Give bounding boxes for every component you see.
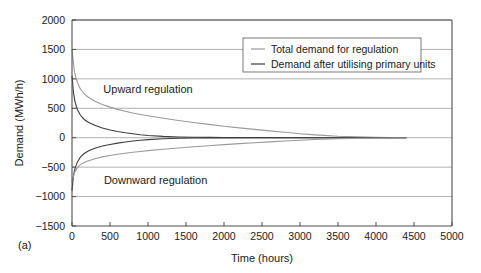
x-tick-label: 4000 [364, 230, 388, 242]
annotation-label-0: Upward regulation [103, 83, 192, 95]
panel-label: (a) [18, 239, 31, 251]
y-axis-title: Demand (MWh/h) [13, 80, 25, 167]
y-tick-label: −500 [41, 161, 65, 173]
x-tick-label: 1000 [136, 230, 160, 242]
y-tick-label: 2000 [42, 14, 66, 26]
y-tick-label: −1000 [36, 190, 66, 202]
x-tick-label: 500 [101, 230, 119, 242]
x-tick-label: 4500 [402, 230, 426, 242]
y-tick-label: 1000 [42, 73, 66, 85]
annotation-label-1: Downward regulation [104, 174, 207, 186]
y-tick-label: 500 [47, 102, 65, 114]
chart-figure: −1500−1000−50005001000150020000500100015… [0, 0, 481, 273]
legend-label-0: Total demand for regulation [271, 43, 398, 55]
y-tick-label: 1500 [42, 43, 66, 55]
y-tick-label: 0 [59, 131, 65, 143]
x-tick-label: 3000 [288, 230, 312, 242]
legend-label-1: Demand after utilising primary units [271, 58, 436, 70]
x-tick-label: 1500 [174, 230, 198, 242]
y-tick-label: −1500 [36, 220, 66, 232]
plot-annotations: Upward regulationDownward regulation [103, 83, 207, 186]
x-tick-label: 5000 [440, 230, 464, 242]
x-tick-label: 2500 [250, 230, 274, 242]
chart-legend: Total demand for regulationDemand after … [243, 38, 436, 72]
x-tick-label: 2000 [212, 230, 236, 242]
x-axis-title: Time (hours) [231, 252, 293, 264]
demand-regulation-line-chart: −1500−1000−50005001000150020000500100015… [0, 0, 481, 273]
x-tick-label: 0 [69, 230, 75, 242]
x-tick-label: 3500 [326, 230, 350, 242]
